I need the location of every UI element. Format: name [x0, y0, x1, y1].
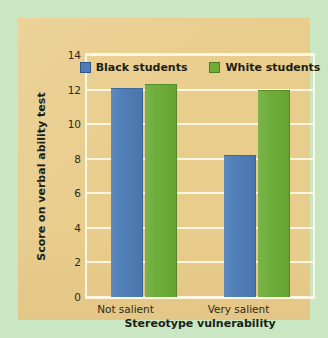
y-axis-tick-label: 14	[68, 49, 81, 61]
legend-item[interactable]: Black students	[80, 61, 188, 74]
y-axis-tick-label: 10	[68, 118, 81, 130]
legend-swatch-icon	[80, 62, 91, 73]
x-axis-title-text: Stereotype vulnerability	[124, 317, 275, 330]
legend-swatch-icon	[209, 62, 220, 73]
y-axis-tick-label: 0	[74, 291, 81, 303]
y-axis-tick-label: 2	[74, 256, 81, 268]
legend-label: White students	[225, 61, 320, 74]
bar	[224, 155, 256, 297]
chart-figure: Score on verbal ability test 02468101214…	[0, 0, 328, 338]
y-axis-title-text: Score on verbal ability test	[35, 92, 48, 260]
y-axis-tick-label: 12	[68, 84, 81, 96]
x-axis-title: Stereotype vulnerability	[85, 317, 315, 330]
legend-item[interactable]: White students	[209, 61, 320, 74]
bar	[258, 90, 290, 297]
y-axis-tick-label: 4	[74, 222, 81, 234]
y-axis-tick-label: 6	[74, 187, 81, 199]
plot-inner: 02468101214 Black studentsWhite students	[87, 55, 313, 297]
gridline	[87, 54, 313, 56]
x-axis-tick-label: Very salient	[208, 303, 270, 315]
bar	[111, 88, 143, 297]
chart-panel: Score on verbal ability test 02468101214…	[18, 18, 310, 320]
plot-area: 02468101214 Black studentsWhite students	[85, 53, 315, 299]
x-axis-tick-label: Not salient	[97, 303, 154, 315]
y-axis-title: Score on verbal ability test	[32, 53, 50, 299]
bar	[145, 84, 177, 297]
chart-legend: Black studentsWhite students	[87, 61, 313, 74]
y-axis-tick-label: 8	[74, 153, 81, 165]
legend-label: Black students	[96, 61, 188, 74]
